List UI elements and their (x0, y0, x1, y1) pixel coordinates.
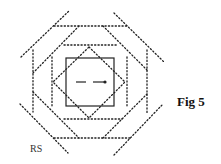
figure-caption: Fig 5 (177, 94, 205, 110)
inner-diagonal-top-right (103, 26, 147, 70)
outer-diagonal-top-right (114, 13, 164, 62)
inner-diagonal-bottom-right (103, 94, 147, 138)
inner-diagonal-top-left (33, 26, 79, 73)
inner-diagonal-bottom-left (33, 92, 79, 138)
outer-diagonal-top-left (21, 10, 70, 57)
outer-diagonal-bottom-right (114, 104, 163, 155)
figure-credit: RS (30, 143, 42, 154)
arrow-head (103, 80, 106, 83)
outer-diagonal-bottom-left (20, 104, 68, 153)
central-square (66, 58, 114, 106)
diagram (0, 0, 221, 164)
